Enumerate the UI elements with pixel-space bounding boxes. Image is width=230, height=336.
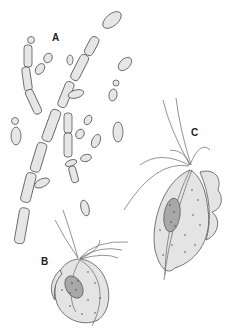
- panel-a-pseudohyphae: [11, 8, 134, 244]
- figure-canvas: A B C: [0, 0, 230, 336]
- label-c: C: [191, 127, 198, 138]
- label-a: A: [52, 32, 59, 43]
- panel-b-trichomonad: [51, 210, 128, 326]
- panel-c-trichomonad: [124, 98, 221, 280]
- label-b: B: [41, 256, 48, 267]
